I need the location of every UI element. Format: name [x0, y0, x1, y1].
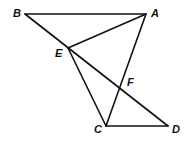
point-label-a: A	[150, 7, 159, 19]
point-label-d: D	[172, 123, 180, 135]
geometry-diagram: ABCDEF	[0, 0, 192, 141]
segment-ae	[68, 14, 146, 48]
point-label-f: F	[127, 76, 134, 88]
segment-bd	[25, 14, 168, 126]
point-label-b: B	[13, 7, 21, 19]
segment-ec	[68, 48, 106, 126]
point-label-c: C	[94, 123, 103, 135]
segments	[25, 14, 168, 126]
segment-ac	[106, 14, 146, 126]
point-label-e: E	[55, 47, 63, 59]
